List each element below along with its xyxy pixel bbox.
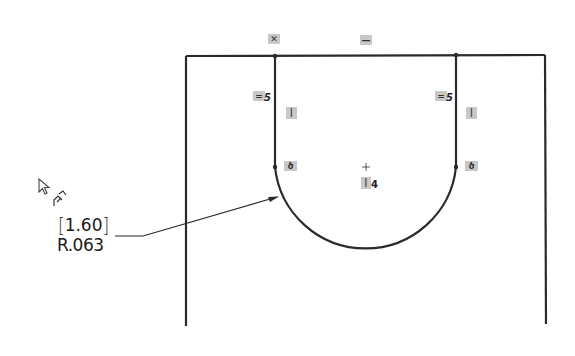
vertical-icon[interactable]: | [361,177,371,189]
sketch-slot-profile[interactable] [275,55,456,248]
vertical-icon[interactable]: | [286,107,297,119]
vertical-index-label: 4 [371,179,378,190]
dimension-bracket-value: 1.60 [65,215,103,235]
bracket-close: ] [103,215,110,236]
dimension-radius-value[interactable]: R.063 [57,236,104,254]
smart-dimension-icon [52,190,68,208]
tangent-icon[interactable]: ծ [284,161,297,171]
dimension-value-driven[interactable]: [1.60] [58,216,109,234]
tangent-icon[interactable]: ծ [465,161,478,171]
coincident-icon[interactable]: ✕ [268,34,280,44]
pointer-cursor-icon [38,178,52,196]
horizontal-icon[interactable]: — [360,35,372,45]
arc-center-mark[interactable] [362,163,370,171]
vertical-icon[interactable]: | [466,107,477,119]
sketch-canvas[interactable] [0,0,575,356]
equal-index-label: 5 [264,92,271,103]
equal-index-label: 5 [446,92,453,103]
bracket-open: [ [58,215,65,236]
dimension-leader [115,197,277,236]
leader-arrowhead [268,197,279,203]
sketch-endpoints[interactable] [273,53,458,169]
sketch-outer-frame[interactable] [186,55,546,326]
